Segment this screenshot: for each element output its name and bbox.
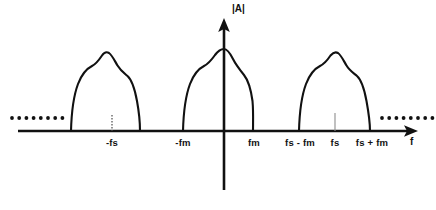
y-axis — [218, 18, 230, 190]
tick-label-negative-fs: -fs — [106, 138, 118, 148]
x-axis — [18, 125, 418, 137]
ellipsis-right — [380, 116, 434, 120]
tick-label-fs-plus-fm: fs + fm — [356, 138, 388, 148]
spectrum-diagram: |A| f -fs -fm fm fs - fm fs fs + fm — [0, 0, 436, 210]
spectrum-plot-canvas — [0, 0, 436, 210]
tick-label-fs-minus-fm: fs - fm — [285, 138, 315, 148]
tick-label-fs: fs — [331, 138, 340, 148]
tick-label-fm: fm — [248, 138, 260, 148]
lobe-curve-negative-fs — [71, 52, 140, 131]
ellipsis-left — [10, 116, 64, 120]
x-axis-label: f — [410, 137, 413, 147]
y-axis-label: |A| — [232, 4, 245, 14]
lobe-curve-baseband — [183, 49, 253, 131]
tick-label-negative-fm: -fm — [175, 138, 190, 148]
